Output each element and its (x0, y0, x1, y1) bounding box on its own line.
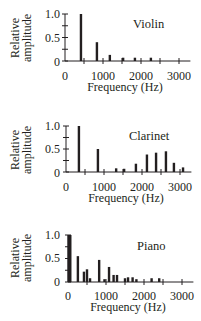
amplitude-bar (165, 151, 167, 172)
amplitude-bar (80, 14, 82, 61)
amplitude-bar (112, 275, 114, 282)
ytick-1.0: 1.0 (36, 120, 60, 132)
amplitude-bar (77, 256, 79, 282)
ytick-0: 0 (36, 56, 60, 68)
violin-title: Violin (133, 18, 164, 31)
amplitude-bar (83, 272, 85, 282)
amplitude-bar (135, 279, 137, 282)
amplitude-bar (134, 58, 136, 61)
amplitude-bar (69, 235, 71, 282)
amplitude-bar (86, 269, 88, 282)
amplitude-bar (89, 278, 91, 282)
clarinet-ylabel: Relative amplitude (9, 125, 33, 175)
amplitude-bar (122, 58, 124, 61)
amplitude-bar (103, 279, 105, 282)
amplitude-bar (109, 55, 111, 61)
ylabel-line2: amplitude (21, 233, 33, 283)
amplitude-bar (158, 278, 160, 282)
clarinet-xlabel: Frequency (Hz) (61, 192, 191, 204)
ytick-0.5: 0.5 (36, 143, 60, 155)
amplitude-bar (135, 164, 137, 172)
amplitude-bar (182, 167, 184, 172)
ytick-0: 0 (36, 276, 60, 288)
amplitude-bar (150, 278, 152, 282)
amplitude-bar (173, 163, 175, 172)
amplitude-bar (108, 267, 110, 282)
clarinet-chart: Relative amplitude 1.0 0.5 0 0 1000 2000… (0, 110, 201, 217)
violin-chart: Relative amplitude 1.0 0.5 0 0 1000 2000… (0, 0, 201, 107)
piano-xlabel: Frequency (Hz) (63, 301, 193, 313)
piano-chart: Relative amplitude 1.0 0.5 0 0 1000 2000… (0, 220, 201, 321)
amplitude-bar (115, 168, 117, 172)
amplitude-bar (150, 58, 152, 61)
piano-title: Piano (137, 240, 165, 253)
ylabel-line2: amplitude (21, 125, 33, 175)
amplitude-bar (123, 169, 125, 172)
ytick-0.5: 0.5 (36, 32, 60, 44)
amplitude-bar (97, 149, 99, 172)
amplitude-bar (96, 42, 98, 61)
amplitude-bar (98, 260, 100, 282)
amplitude-bar (155, 153, 157, 172)
ytick-1.0: 1.0 (36, 229, 60, 241)
piano-ylabel: Relative amplitude (9, 233, 33, 283)
amplitude-bar (131, 277, 133, 282)
amplitude-bar (78, 126, 80, 172)
violin-xlabel: Frequency (Hz) (60, 81, 190, 93)
violin-ylabel: Relative amplitude (9, 13, 33, 63)
ytick-1.0: 1.0 (36, 8, 60, 20)
ylabel-line2: amplitude (21, 13, 33, 63)
amplitude-bar (116, 275, 118, 282)
amplitude-bar (127, 277, 129, 282)
amplitude-bar (124, 278, 126, 282)
ytick-0: 0 (36, 167, 60, 179)
amplitude-bar (146, 155, 148, 172)
ytick-0.5: 0.5 (36, 252, 60, 264)
clarinet-title: Clarinet (129, 130, 169, 143)
